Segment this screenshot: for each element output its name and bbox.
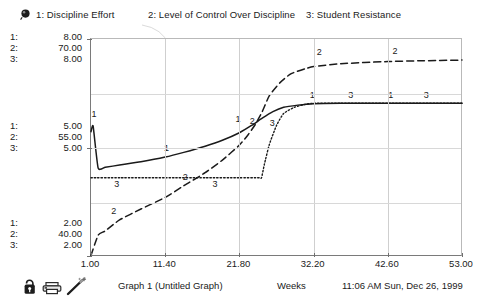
y-label-index: 3: [10,142,18,153]
legend-item-2[interactable]: 2: Level of Control Over Discipline [148,9,295,20]
y-label-index: 2: [10,131,18,142]
y-label-value: 40.00 [58,228,82,239]
series-line-2 [91,60,462,255]
series-point-label-2: 2 [111,206,116,216]
y-label-value: 55.00 [58,131,82,142]
y-label-row: 2:40.00 [0,228,86,239]
y-label-row: 1:2.00 [0,217,86,228]
series-point-label-2: 2 [392,46,397,56]
y-label-index: 3: [10,53,18,64]
x-axis-tick [314,253,315,257]
legend-item-3[interactable]: 3: Student Resistance [306,9,401,20]
y-label-row: 2:70.00 [0,42,86,53]
footer-toolbar [22,276,92,296]
x-axis-tick-label: 21.80 [227,258,251,269]
lock-icon [25,280,35,294]
series-point-label-2: 2 [317,47,322,57]
x-axis-tick [388,253,389,257]
y-label-row: 3:2.00 [0,239,86,250]
wand-icon [68,277,86,294]
vertical-gridline [314,39,315,255]
y-label-index: 1: [10,120,18,131]
x-axis-tick [165,253,166,257]
graph-title: Graph 1 (Untitled Graph) [118,280,223,291]
x-axis-tick [239,253,240,257]
x-axis-title: Weeks [277,280,306,291]
x-axis-tick-label: 1.00 [81,258,100,269]
legend: 1: Discipline Effort 2: Level of Control… [0,6,482,24]
timestamp: 11:06 AM Sun, Dec 26, 1999 [342,280,463,291]
x-axis-tick-label: 11.40 [153,258,176,269]
y-label-row: 1:5.00 [0,120,86,131]
x-axis-tick-label: 53.00 [449,258,473,269]
vertical-gridline [239,39,240,255]
y-label-value: 70.00 [58,42,82,53]
y-axis-tick [87,256,92,257]
y-axis-labels-middle: 1:5.00 2:55.00 3:5.00 [0,120,86,153]
horizontal-gridline [91,203,461,204]
vertical-gridline [165,39,166,255]
printer-icon [43,283,61,294]
series-line-1 [91,103,462,169]
y-label-row: 3:8.00 [0,53,86,64]
series-line-3 [91,103,462,178]
pushpin-icon[interactable] [20,9,31,20]
y-label-value: 5.00 [64,142,83,153]
y-label-row: 3:5.00 [0,142,86,153]
y-axis-tick [87,39,92,40]
series-point-label-2: 2 [183,172,188,182]
series-point-label-2: 2 [250,116,255,126]
plot-area[interactable]: 111112222233333 [90,38,462,256]
y-axis-labels-bottom: 1:2.00 2:40.00 3:2.00 [0,217,86,250]
y-axis-tick [87,148,92,149]
series-point-label-3: 3 [213,179,218,189]
y-axis-labels-top: 1:8.00 2:70.00 3:8.00 [0,31,86,64]
y-label-value: 2.00 [64,217,83,228]
vertical-gridline [388,39,389,255]
y-label-index: 1: [10,217,18,228]
y-label-row: 2:55.00 [0,131,86,142]
graph-window: 1: Discipline Effort 2: Level of Control… [0,0,482,303]
series-point-label-3: 3 [114,179,119,189]
horizontal-gridline [91,148,461,149]
series-point-label-3: 3 [270,118,275,128]
x-axis-tick [462,253,463,257]
y-label-index: 2: [10,228,18,239]
y-label-value: 8.00 [64,31,83,42]
x-axis-tick-label: 32.20 [301,258,325,269]
y-label-index: 3: [10,239,18,250]
x-axis-tick-label: 42.60 [375,258,399,269]
y-label-value: 8.00 [64,53,83,64]
y-label-value: 2.00 [64,239,83,250]
y-label-index: 2: [10,42,18,53]
series-point-label-1: 1 [91,109,96,119]
y-label-value: 5.00 [64,120,83,131]
legend-item-1[interactable]: 1: Discipline Effort [36,9,114,20]
horizontal-gridline [91,94,461,95]
y-label-row: 1:8.00 [0,31,86,42]
y-label-index: 1: [10,31,18,42]
